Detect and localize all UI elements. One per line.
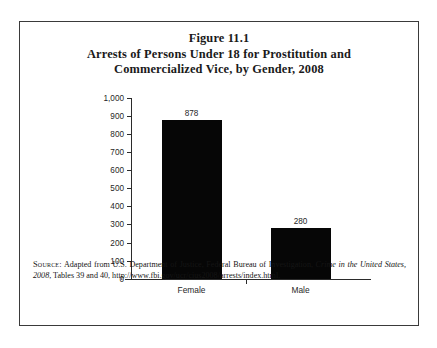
y-axis-tick (127, 134, 131, 135)
y-axis-label: 700 (110, 148, 124, 157)
y-axis-label: 200 (110, 238, 124, 247)
y-axis-tick (127, 170, 131, 171)
x-axis-category-male: Male (291, 285, 309, 295)
figure-number: Figure 11.1 (20, 31, 418, 47)
source-label: Source: (33, 260, 62, 269)
y-axis-tick (127, 206, 131, 207)
y-axis-label: 900 (110, 112, 124, 121)
source-note: Source: Adapted from U.S. Department of … (33, 260, 406, 281)
bar-chart: 01002003004005006007008009001,000878Fema… (20, 92, 418, 252)
y-axis-label: 1,000 (104, 94, 125, 103)
source-text-after: , Tables 39 and 40, http://www.fbi.gov/u… (49, 271, 280, 280)
figure-title: Figure 11.1 Arrests of Persons Under 18 … (20, 22, 418, 78)
bar-value-label: 878 (185, 109, 199, 118)
figure-box: Figure 11.1 Arrests of Persons Under 18 … (19, 21, 419, 326)
y-axis-label: 800 (110, 130, 124, 139)
bar-female (162, 120, 222, 279)
y-axis-label: 600 (110, 166, 124, 175)
y-axis-line (131, 98, 132, 280)
y-axis-tick (127, 116, 131, 117)
y-axis-tick (127, 243, 131, 244)
y-axis-label: 300 (110, 220, 124, 229)
y-axis-tick (127, 152, 131, 153)
figure-title-line-1: Arrests of Persons Under 18 for Prostitu… (20, 47, 418, 63)
y-axis-label: 500 (110, 184, 124, 193)
y-axis-tick (127, 188, 131, 189)
bar-value-label: 280 (294, 217, 308, 226)
y-axis-label: 400 (110, 202, 124, 211)
source-text-before: Adapted from U.S. Department of Justice,… (62, 260, 316, 269)
plot-area: 01002003004005006007008009001,000878Fema… (131, 98, 349, 280)
y-axis-tick (127, 224, 131, 225)
figure-title-line-2: Commercialized Vice, by Gender, 2008 (20, 62, 418, 78)
x-axis-category-female: Female (178, 285, 206, 295)
y-axis-tick (127, 98, 131, 99)
